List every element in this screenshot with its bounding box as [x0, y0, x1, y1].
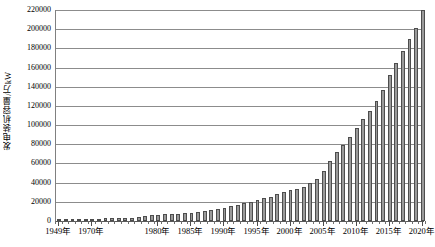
x-tick — [108, 221, 109, 224]
x-tick — [128, 221, 129, 224]
chart-container: 发电装机容量/万kW 02000040000600008000010000012… — [0, 0, 435, 247]
x-tick — [247, 221, 248, 224]
x-tick — [366, 221, 367, 224]
bar — [190, 213, 194, 221]
x-tick — [385, 221, 386, 224]
x-tick — [101, 221, 102, 224]
bar — [289, 190, 293, 221]
bar — [401, 51, 405, 221]
x-tick — [62, 221, 63, 224]
x-tick — [220, 221, 221, 224]
bar — [408, 39, 412, 221]
x-tick — [75, 221, 76, 224]
x-tick — [319, 221, 320, 224]
bar — [223, 208, 227, 221]
x-tick — [339, 221, 340, 224]
x-tick — [134, 221, 135, 224]
x-tick — [207, 221, 208, 224]
x-tick — [161, 221, 162, 224]
x-tick — [253, 221, 254, 224]
x-tick-label: 1970年 — [78, 226, 104, 237]
bar — [302, 187, 306, 221]
x-tick-label: 2015年 — [376, 226, 402, 237]
y-tick-label: 80000 — [31, 140, 51, 148]
x-tick — [121, 221, 122, 224]
x-tick-label: 2005年 — [310, 226, 336, 237]
x-tick — [233, 221, 234, 224]
bar — [236, 205, 240, 221]
bar — [176, 214, 180, 221]
x-tick — [194, 221, 195, 224]
bar — [262, 198, 266, 221]
x-tick — [286, 221, 287, 224]
x-tick — [273, 221, 274, 224]
bar — [275, 194, 279, 221]
x-tick — [399, 221, 400, 224]
y-tick-label: 220000 — [27, 6, 51, 14]
y-axis-title-text: 发电装机容量/万kW — [2, 72, 14, 150]
x-axis-tick-labels: 1949年1970年1980年1985年1990年1995年2000年2005年… — [0, 226, 435, 247]
y-tick-label: 180000 — [27, 44, 51, 52]
bar — [295, 189, 299, 221]
x-tick — [379, 221, 380, 224]
x-tick — [227, 221, 228, 224]
y-tick-label: 200000 — [27, 25, 51, 33]
bar-series — [56, 10, 424, 221]
bar — [216, 209, 220, 221]
x-tick — [326, 221, 327, 224]
bar — [335, 152, 339, 221]
x-tick — [55, 221, 56, 224]
x-tick — [392, 221, 393, 224]
x-tick — [214, 221, 215, 224]
x-tick — [280, 221, 281, 224]
x-tick — [95, 221, 96, 224]
x-tick — [81, 221, 82, 224]
x-tick — [412, 221, 413, 224]
x-tick — [148, 221, 149, 224]
x-tick — [333, 221, 334, 224]
x-tick-label: 1949年 — [45, 226, 71, 237]
x-tick — [68, 221, 69, 224]
bar — [269, 197, 273, 221]
y-tick-label: 120000 — [27, 102, 51, 110]
bar — [229, 206, 233, 221]
x-tick — [405, 221, 406, 224]
plot-area — [55, 10, 425, 221]
bar — [242, 203, 246, 221]
x-tick — [425, 221, 426, 224]
x-tick — [299, 221, 300, 224]
bar — [388, 75, 392, 221]
y-tick-label: 160000 — [27, 64, 51, 72]
x-tick — [88, 221, 89, 224]
bar — [361, 119, 365, 221]
bar — [328, 161, 332, 221]
y-tick-label: 140000 — [27, 83, 51, 91]
x-tick — [372, 221, 373, 224]
x-tick — [181, 221, 182, 224]
x-tick — [293, 221, 294, 224]
bar — [183, 213, 187, 221]
bar — [308, 183, 312, 221]
x-tick — [418, 221, 419, 224]
x-tick-label: 1985年 — [177, 226, 203, 237]
bar — [203, 211, 207, 221]
x-tick — [306, 221, 307, 224]
x-tick-label: 1980年 — [144, 226, 170, 237]
bar — [209, 210, 213, 221]
bar — [421, 10, 425, 221]
x-tick — [240, 221, 241, 224]
bar — [196, 212, 200, 221]
bar — [394, 63, 398, 221]
x-tick-label: 1990年 — [210, 226, 236, 237]
x-tick — [359, 221, 360, 224]
bar — [249, 202, 253, 221]
y-tick-label: 40000 — [31, 179, 51, 187]
x-tick-label: 1995年 — [244, 226, 270, 237]
bar — [341, 145, 345, 221]
bar — [170, 214, 174, 221]
x-tick-label: 2000年 — [277, 226, 303, 237]
x-tick-label: 2010年 — [343, 226, 369, 237]
y-tick-label: 100000 — [27, 121, 51, 129]
bar — [355, 128, 359, 221]
x-tick — [346, 221, 347, 224]
